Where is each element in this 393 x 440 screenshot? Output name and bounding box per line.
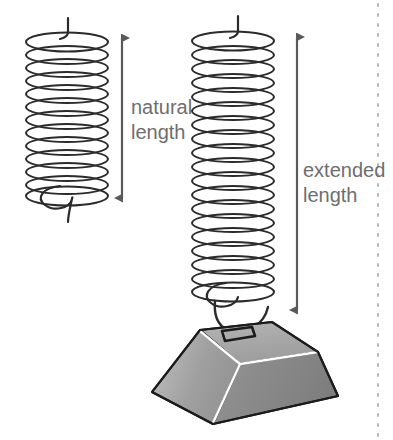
extended-spring-coils: [192, 32, 274, 302]
diagram-canvas: [0, 0, 393, 440]
natural-length-label-line2: length: [131, 120, 192, 145]
extended-length-label-line2: length: [303, 183, 385, 208]
extended-spring-top-stub: [230, 16, 238, 38]
extended-spring-bottom-hook: [207, 283, 238, 307]
natural-length-label: natural length: [131, 95, 192, 145]
natural-spring-top-stub: [60, 18, 68, 39]
natural-spring-coils: [26, 33, 108, 206]
extended-length-label: extended length: [303, 158, 385, 208]
natural-length-label-line1: natural: [131, 95, 192, 120]
spring-diagram: natural length extended length: [0, 0, 393, 440]
hanging-weight-block: [152, 322, 338, 424]
natural-spring: [26, 18, 108, 222]
extended-length-label-line1: extended: [303, 158, 385, 183]
extended-spring: [192, 16, 274, 328]
